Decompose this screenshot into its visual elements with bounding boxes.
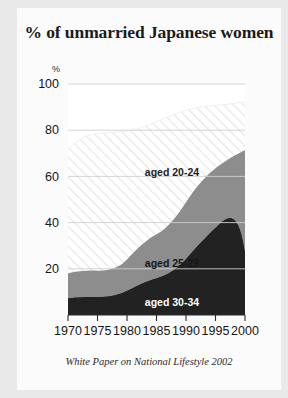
source-caption: White Paper on National Lifestyle 2002 [17, 356, 281, 367]
x-tick-1990: 1990 [172, 324, 200, 338]
y-tick-60: 60 [25, 170, 59, 184]
x-axis-ticks [68, 315, 245, 321]
x-tick-1970: 1970 [54, 324, 82, 338]
y-tick-80: 80 [25, 123, 59, 137]
series-label-aged-20-24: aged 20-24 [145, 166, 199, 178]
series-label-aged-25-29: aged 25-29 [145, 257, 199, 269]
chart-card: % of unmarried Japanese women % [17, 8, 281, 390]
chart-plot-area: 20 40 60 80 100 1970 1975 1980 1985 1990… [17, 8, 281, 390]
x-tick-1980: 1980 [113, 324, 141, 338]
x-tick-1995: 1995 [202, 324, 230, 338]
y-tick-100: 100 [25, 77, 59, 91]
x-tick-2000: 2000 [231, 324, 259, 338]
x-tick-1985: 1985 [143, 324, 171, 338]
x-tick-1975: 1975 [84, 324, 112, 338]
y-tick-40: 40 [25, 216, 59, 230]
series-label-aged-30-34: aged 30-34 [145, 296, 199, 308]
y-tick-20: 20 [25, 262, 59, 276]
